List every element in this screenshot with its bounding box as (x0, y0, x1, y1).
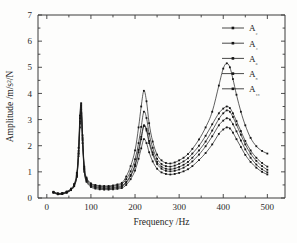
data-point (140, 147, 142, 149)
legend-marker (232, 57, 235, 60)
data-point (255, 145, 257, 147)
data-point (143, 90, 145, 92)
y-tick-label: 6 (28, 36, 33, 46)
data-point (94, 184, 96, 186)
data-point (229, 128, 231, 130)
data-point (226, 110, 228, 112)
data-point (226, 117, 228, 119)
data-point (57, 192, 59, 194)
data-point (161, 159, 163, 161)
data-point (244, 140, 246, 142)
data-point (53, 191, 55, 193)
data-point (138, 149, 140, 151)
data-point (138, 142, 140, 144)
data-point (226, 62, 228, 64)
data-point (161, 171, 163, 173)
data-point (222, 108, 224, 110)
data-point (240, 111, 242, 113)
data-point (205, 152, 207, 154)
data-point (211, 135, 213, 137)
data-point (169, 163, 171, 165)
data-point (61, 192, 63, 194)
data-point (250, 153, 252, 155)
data-point (174, 165, 176, 167)
data-point (236, 130, 238, 132)
data-point (218, 118, 220, 120)
data-point (240, 130, 242, 132)
data-point (152, 161, 154, 163)
data-point (134, 170, 136, 172)
data-point (187, 168, 189, 170)
data-point (130, 170, 132, 172)
data-point (148, 133, 150, 135)
data-point (232, 78, 234, 80)
data-point (152, 152, 154, 154)
x-tick-label: 200 (128, 202, 142, 212)
data-point (183, 157, 185, 159)
data-point (244, 148, 246, 150)
data-point (222, 120, 224, 122)
data-point (178, 159, 180, 161)
data-point (266, 174, 268, 176)
data-point (174, 173, 176, 175)
data-point (178, 172, 180, 174)
data-point (244, 144, 246, 146)
data-point (211, 111, 213, 113)
data-point (140, 126, 142, 128)
data-point (250, 150, 252, 152)
data-point (255, 160, 257, 162)
data-point (211, 144, 213, 146)
data-point (187, 153, 189, 155)
data-point (187, 157, 189, 159)
data-point (108, 185, 110, 187)
data-point (134, 158, 136, 160)
data-point (205, 145, 207, 147)
data-point (148, 140, 150, 142)
data-point (116, 184, 118, 186)
chart-figure: 012345670100200300400500 A₂A₄A₆A₈A₁₀ Fre… (0, 0, 297, 243)
data-point (90, 182, 92, 184)
data-point (255, 164, 257, 166)
data-point (244, 154, 246, 156)
data-point (80, 102, 82, 104)
data-point (174, 162, 176, 164)
data-point (240, 134, 242, 136)
data-point (140, 136, 142, 138)
data-point (232, 132, 234, 134)
data-point (134, 150, 136, 152)
data-point (198, 150, 200, 152)
data-point (218, 133, 220, 135)
y-tick-label: 5 (28, 62, 33, 72)
data-point (143, 124, 145, 126)
data-point (76, 172, 78, 174)
data-point (266, 171, 268, 173)
data-point (229, 107, 231, 109)
y-tick-label: 1 (28, 167, 33, 177)
data-point (125, 181, 127, 183)
data-point (130, 178, 132, 180)
legend-marker (232, 27, 235, 30)
data-point (183, 161, 185, 163)
data-point (229, 66, 231, 68)
data-point (191, 165, 193, 167)
data-point (130, 174, 132, 176)
data-point (205, 127, 207, 129)
data-point (191, 148, 193, 150)
data-point (222, 129, 224, 131)
data-point (66, 191, 68, 193)
data-point (174, 168, 176, 170)
data-point (165, 162, 167, 164)
data-point (130, 165, 132, 167)
data-point (99, 185, 101, 187)
data-point (83, 166, 85, 168)
data-point (240, 146, 242, 148)
data-point (211, 130, 213, 132)
data-point (226, 106, 228, 108)
data-point (261, 171, 263, 173)
y-tick-label: 3 (28, 115, 33, 125)
data-point (183, 167, 185, 169)
data-point (161, 166, 163, 168)
data-point (205, 135, 207, 137)
data-point (112, 185, 114, 187)
data-point (229, 119, 231, 121)
